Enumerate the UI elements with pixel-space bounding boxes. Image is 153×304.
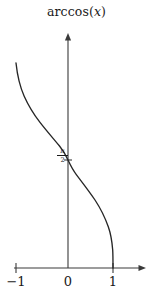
- fraction-denominator: 2: [57, 156, 68, 163]
- arccos-plot-figure: arccos(x) −1 0 1 π 2: [0, 0, 153, 304]
- y-tick-label-pi-over-2: π 2: [57, 148, 68, 163]
- x-tick-label-neg1: −1: [2, 274, 30, 289]
- x-axis-arrowhead-icon: [139, 265, 147, 271]
- x-tick-label-0: 0: [54, 274, 82, 289]
- plot-canvas: [0, 0, 153, 304]
- arccos-curve: [16, 63, 113, 268]
- y-axis-arrowhead-icon: [65, 33, 71, 41]
- x-tick-label-1: 1: [99, 274, 127, 289]
- fraction-numerator: π: [57, 148, 68, 155]
